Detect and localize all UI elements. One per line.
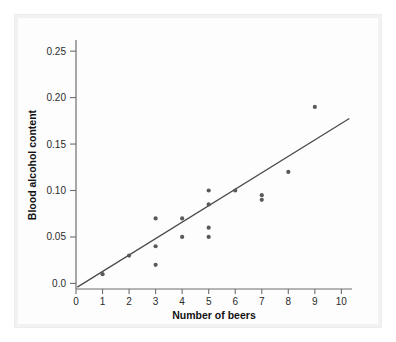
figure-container: 0.00.050.100.150.200.25 012345678910 Num… bbox=[0, 0, 396, 342]
axes-group bbox=[76, 40, 352, 289]
data-point bbox=[207, 188, 211, 192]
scatter-plot: 0.00.050.100.150.200.25 012345678910 Num… bbox=[0, 0, 396, 342]
data-point bbox=[154, 216, 158, 220]
x-axis-title: Number of beers bbox=[172, 309, 256, 321]
data-point bbox=[260, 198, 264, 202]
x-tick-label: 0 bbox=[73, 296, 79, 307]
data-point bbox=[154, 263, 158, 267]
x-axis-ticks: 012345678910 bbox=[73, 289, 347, 307]
x-tick-label: 3 bbox=[153, 296, 159, 307]
x-tick-label: 1 bbox=[100, 296, 106, 307]
data-point bbox=[127, 253, 131, 257]
regression-line bbox=[77, 119, 349, 288]
y-tick-label: 0.05 bbox=[47, 231, 67, 242]
x-tick-label: 5 bbox=[206, 296, 212, 307]
data-point bbox=[313, 105, 317, 109]
x-tick-label: 4 bbox=[179, 296, 185, 307]
data-point bbox=[180, 216, 184, 220]
y-axis-ticks: 0.00.050.100.150.200.25 bbox=[47, 46, 76, 289]
x-tick-label: 7 bbox=[259, 296, 265, 307]
y-tick-label: 0.25 bbox=[47, 46, 67, 57]
x-tick-label: 9 bbox=[312, 296, 318, 307]
y-tick-label: 0.15 bbox=[47, 139, 67, 150]
data-point bbox=[207, 226, 211, 230]
y-tick-label: 0.20 bbox=[47, 92, 67, 103]
y-tick-label: 0.0 bbox=[52, 278, 66, 289]
data-point bbox=[100, 272, 104, 276]
data-point bbox=[286, 170, 290, 174]
x-tick-label: 6 bbox=[232, 296, 238, 307]
y-tick-label: 0.10 bbox=[47, 185, 67, 196]
x-tick-label: 8 bbox=[286, 296, 292, 307]
data-point bbox=[233, 188, 237, 192]
data-points-group bbox=[100, 105, 317, 276]
data-point bbox=[260, 193, 264, 197]
x-tick-label: 2 bbox=[126, 296, 132, 307]
data-point bbox=[180, 235, 184, 239]
x-tick-label: 10 bbox=[336, 296, 348, 307]
data-point bbox=[207, 202, 211, 206]
data-point bbox=[154, 244, 158, 248]
data-point bbox=[207, 235, 211, 239]
y-axis-title: Blood alcohol content bbox=[26, 109, 38, 220]
